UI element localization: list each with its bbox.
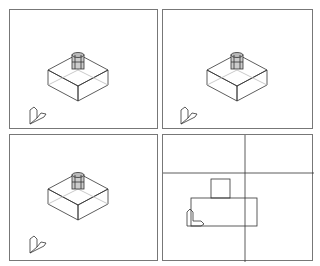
ucs-icon	[181, 107, 197, 124]
viewport-top-left[interactable]	[9, 9, 158, 129]
ucs-icon	[30, 236, 46, 253]
isometric-model-view	[10, 135, 159, 262]
isometric-model-view	[10, 10, 159, 130]
ucs-icon	[30, 107, 46, 124]
isometric-model-view	[163, 10, 314, 130]
ucs-icon	[187, 209, 204, 226]
viewport-bottom-right[interactable]	[162, 134, 313, 261]
viewport-top-right[interactable]	[162, 9, 313, 129]
front-model-view	[163, 135, 314, 262]
viewport-bottom-left[interactable]	[9, 134, 158, 261]
